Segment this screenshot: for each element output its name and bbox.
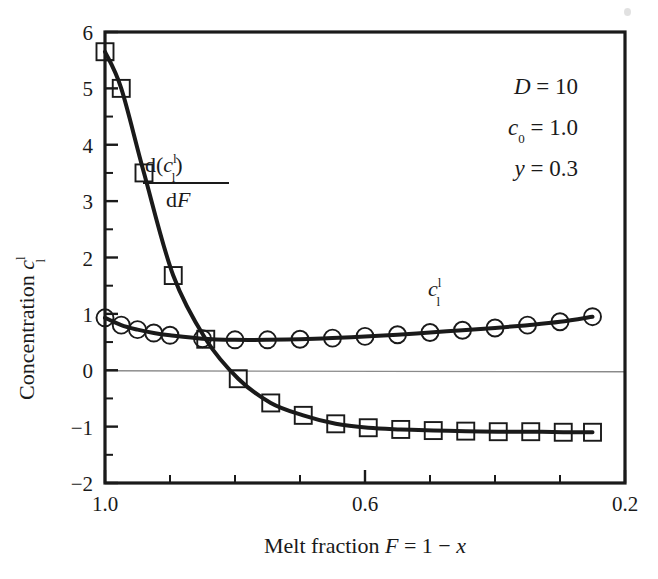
derivative-denominator: dF [166, 187, 191, 212]
y-axis-title-subscript: l [33, 258, 48, 262]
x-axis-title: Melt fraction F = 1 − x [264, 533, 466, 558]
x-axis-title-variable: x [455, 533, 466, 558]
y-tick-label: 4 [83, 134, 94, 158]
y-axis-title-superscript: l [13, 256, 28, 260]
y-tick-label: 3 [83, 190, 94, 214]
concentration-vs-melt-fraction-chart: 6543210−1−2 1.00.60.2 Concentration cll … [0, 0, 658, 579]
data-point-circle [552, 313, 569, 330]
parameter-annotation: D = 10 [513, 74, 578, 99]
data-point-circle [422, 324, 439, 341]
data-point-circle [389, 326, 406, 343]
data-point-circle [454, 322, 471, 339]
y-axis-title-prefix: Concentration [14, 270, 39, 400]
data-point-circle [259, 331, 276, 348]
y-tick-label: 1 [83, 303, 94, 327]
parameter-annotation: y = 0.3 [513, 156, 578, 181]
figure-container: 6543210−1−2 1.00.60.2 Concentration cll … [0, 0, 658, 579]
data-point-circle [584, 308, 601, 325]
data-point-circle [357, 328, 374, 345]
svg-text:Melt fraction F = 1 − x: Melt fraction F = 1 − x [264, 533, 466, 558]
concentration-label-subscript: l [436, 294, 440, 309]
y-tick-label: 0 [83, 359, 94, 383]
data-point-circle [324, 330, 341, 347]
data-point-circle [129, 321, 146, 338]
data-point-circle [292, 331, 309, 348]
data-point-circle [227, 331, 244, 348]
scan-artifact-speck [624, 8, 631, 16]
data-point-circle [519, 317, 536, 334]
data-point-circle [487, 319, 504, 336]
x-tick-label: 0.2 [612, 492, 638, 516]
x-tick-label: 1.0 [92, 492, 118, 516]
x-tick-label: 0.6 [352, 492, 378, 516]
data-point-circle [113, 317, 130, 334]
y-tick-label: 6 [83, 21, 94, 45]
data-point-circle [145, 325, 162, 342]
data-point-circle [162, 327, 179, 344]
y-tick-label: −1 [71, 416, 93, 440]
y-tick-label: 5 [83, 77, 94, 101]
y-tick-label: 2 [83, 247, 94, 271]
x-axis-title-equals: = 1 − [398, 533, 456, 558]
y-tick-label: −2 [71, 472, 93, 496]
concentration-label-superscript: l [438, 275, 442, 290]
data-point-circle [97, 309, 114, 326]
x-axis-title-prefix: Melt fraction [264, 533, 385, 558]
x-axis-title-symbol: F [384, 533, 399, 558]
